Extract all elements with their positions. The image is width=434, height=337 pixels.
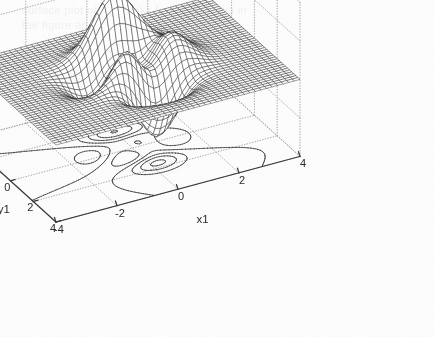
x-tick-label: -4: [54, 223, 64, 235]
x-tick-label: -2: [115, 207, 125, 219]
y-tick-label: 0: [4, 181, 10, 193]
y-tick-label: 2: [27, 201, 33, 213]
contour-projection: [0, 118, 265, 200]
mesh-surface: [0, 0, 300, 145]
x-axis-title: x1: [196, 213, 208, 225]
figure-container: surface plot of the peaks function shown…: [0, 0, 434, 337]
surface-plot: 1050-5-10420-2-4-4-2024f(x1,x2)y1x1: [0, 0, 434, 337]
x-tick-label: 0: [178, 190, 184, 202]
x-tick-label: 4: [300, 157, 306, 169]
y-axis-title: y1: [0, 203, 10, 215]
x-tick-label: 2: [239, 174, 245, 186]
